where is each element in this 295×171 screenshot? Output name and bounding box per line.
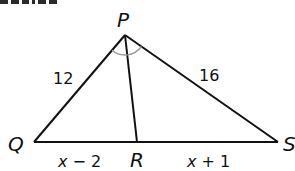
vertex-label-s: S	[283, 132, 295, 156]
angle-mark-rps	[127, 47, 141, 55]
bisector-pr	[125, 35, 137, 142]
segment-label-qr: x − 2	[57, 152, 101, 171]
qr-variable: x	[57, 152, 68, 171]
vertex-label-r: R	[130, 148, 144, 171]
angle-mark-qpr	[112, 50, 127, 55]
side-label-ps: 16	[199, 66, 219, 85]
triangle-diagram: P Q R S 12 16 x − 2 x + 1	[0, 0, 295, 171]
side-ps	[125, 35, 278, 142]
side-pq	[34, 35, 125, 142]
side-label-pq: 12	[53, 69, 73, 88]
rs-constant: + 1	[196, 152, 230, 171]
vertex-label-q: Q	[8, 132, 24, 156]
qr-constant: − 2	[67, 152, 101, 171]
rs-variable: x	[186, 152, 197, 171]
segment-label-rs: x + 1	[186, 152, 230, 171]
vertex-label-p: P	[117, 8, 130, 32]
